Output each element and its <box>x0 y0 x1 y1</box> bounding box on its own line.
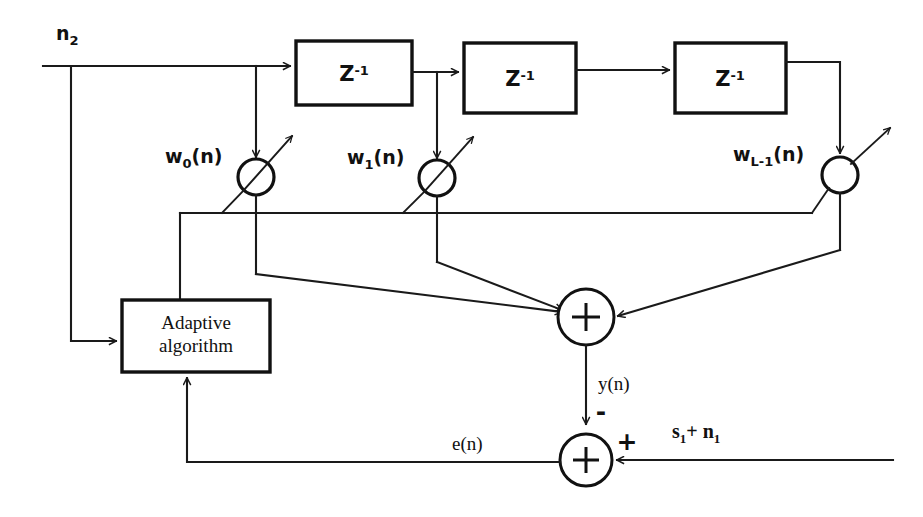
weight-1-label: w1(n) <box>347 146 405 172</box>
weight-1-to-summer-wire <box>437 262 562 310</box>
error-summer <box>560 434 612 486</box>
minus-sign-label: - <box>596 397 606 426</box>
output-summer <box>558 289 614 345</box>
coeff-stub-1-wire <box>403 191 425 213</box>
delay-block-2: Z-1 <box>464 43 576 113</box>
adaptive-algorithm-label-line1: Adaptive <box>161 312 231 333</box>
coeff-stub-0-wire <box>222 190 244 213</box>
weight-output-paths <box>256 250 840 316</box>
weight-node-0 <box>238 136 292 274</box>
weight-2-to-summer-wire <box>618 250 840 316</box>
weight-2-label: wL-1(n) <box>733 143 804 169</box>
weight-0-label: w0(n) <box>165 145 223 171</box>
e-n-feedback-wire <box>187 378 560 462</box>
e-n-label: e(n) <box>452 433 483 455</box>
weight-node-2-adjust-arrow <box>851 128 890 164</box>
delay1-to-delay2-path <box>412 72 458 158</box>
y-n-label: y(n) <box>598 373 630 395</box>
adaptive-algorithm-label-line2: algorithm <box>159 335 233 356</box>
delay3-to-weight3-path <box>786 62 840 153</box>
delay-block-1: Z-1 <box>296 41 412 105</box>
weight-node-1 <box>419 137 473 262</box>
weight-node-2 <box>822 128 890 250</box>
tap-2-wire <box>786 62 840 153</box>
reference-input-label: n2 <box>56 22 79 48</box>
coeff-stub-2-wire <box>812 188 829 213</box>
primary-input-label: s1+ n1 <box>672 420 720 447</box>
diagram-canvas: Z-1 Z-1 Z-1 <box>0 0 923 517</box>
error-feedback-path <box>187 378 560 462</box>
reference-branch-to-adaptive-wire <box>71 66 116 341</box>
adaptive-noise-canceller-diagram: Z-1 Z-1 Z-1 <box>0 0 923 517</box>
delay-block-3: Z-1 <box>675 43 786 113</box>
adaptive-algorithm-block: Adaptive algorithm <box>122 300 270 372</box>
plus-sign-label: + <box>617 427 638 456</box>
